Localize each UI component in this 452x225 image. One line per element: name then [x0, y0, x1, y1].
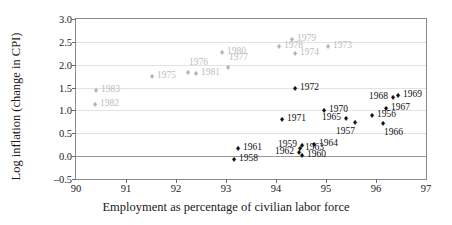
diamond-marker-icon: ♦: [290, 34, 295, 43]
y-axis-title: Log inflation (change in CPI): [9, 27, 24, 187]
y-axis-tick-mark: [72, 42, 76, 43]
diamond-marker-icon: ♦: [226, 63, 231, 72]
y-axis-tick-mark: [72, 65, 76, 66]
diamond-marker-icon: ♦: [150, 72, 155, 81]
data-point-label: 1961: [243, 143, 262, 153]
data-point-label: 1983: [101, 86, 120, 96]
diamond-marker-icon: ♦: [94, 86, 99, 95]
diamond-marker-icon: ♦: [280, 114, 285, 123]
plot-area: –0.50.00.51.01.52.02.53.0909192939495969…: [75, 18, 427, 180]
gridline-horizontal: [76, 65, 426, 66]
data-point-label: 1957: [336, 127, 355, 137]
y-axis-tick-label: –0.5: [54, 174, 72, 185]
gridline-horizontal: [76, 88, 426, 89]
x-axis-tick-mark: [376, 179, 377, 183]
data-point-label: 1980: [227, 47, 246, 57]
diamond-marker-icon: ♦: [293, 49, 298, 58]
y-axis-tick-mark: [72, 179, 76, 180]
data-point-label: 1979: [297, 34, 316, 44]
y-axis-tick-label: 1.5: [59, 82, 72, 93]
diamond-marker-icon: ♦: [300, 151, 305, 160]
data-point-label: 1959: [278, 140, 297, 150]
gridline-horizontal: [76, 133, 426, 134]
data-point-label: 1974: [300, 49, 319, 59]
diamond-marker-icon: ♦: [194, 68, 199, 77]
data-point-label: 1969: [403, 91, 422, 101]
data-point-label: 1982: [100, 100, 119, 110]
diamond-marker-icon: ♦: [370, 111, 375, 120]
y-axis-tick-label: 2.5: [59, 36, 72, 47]
y-axis-tick-mark: [72, 19, 76, 20]
x-axis-tick-mark: [276, 179, 277, 183]
data-point-label: 1973: [333, 41, 352, 51]
y-axis-tick-label: 2.0: [59, 59, 72, 70]
diamond-marker-icon: ♦: [322, 106, 327, 115]
data-point-label: 1966: [384, 128, 403, 138]
y-axis-tick-mark: [72, 133, 76, 134]
y-axis-tick-label: 0.0: [59, 151, 72, 162]
diamond-marker-icon: ♦: [186, 68, 191, 77]
x-axis-tick-mark: [226, 179, 227, 183]
x-axis-tick-mark: [176, 179, 177, 183]
data-point-label: 1967: [391, 103, 410, 113]
data-point-label: 1964: [319, 140, 338, 150]
data-point-label: 1981: [201, 68, 220, 78]
y-axis-tick-label: 3.0: [59, 14, 72, 25]
x-axis-tick-label: 94: [271, 183, 282, 194]
diamond-marker-icon: ♦: [293, 84, 298, 93]
y-axis-tick-mark: [72, 88, 76, 89]
y-axis-tick-label: 0.5: [59, 128, 72, 139]
x-axis-tick-label: 97: [421, 183, 432, 194]
diamond-marker-icon: ♦: [391, 92, 396, 101]
x-axis-tick-mark: [326, 179, 327, 183]
x-axis-tick-label: 95: [321, 183, 332, 194]
x-axis-tick-mark: [126, 179, 127, 183]
diamond-marker-icon: ♦: [277, 41, 282, 50]
y-axis-tick-label: 1.0: [59, 105, 72, 116]
data-point-label: 1960: [307, 150, 326, 160]
x-axis-tick-label: 93: [221, 183, 232, 194]
x-axis-tick-label: 96: [371, 183, 382, 194]
data-point-label: 1976: [189, 58, 208, 68]
chart-figure: –0.50.00.51.01.52.02.53.0909192939495969…: [0, 0, 452, 225]
diamond-marker-icon: ♦: [396, 91, 401, 100]
data-point-label: 1971: [287, 114, 306, 124]
data-point-label: 1968: [369, 92, 388, 102]
diamond-marker-icon: ♦: [326, 41, 331, 50]
x-axis-tick-label: 90: [71, 183, 82, 194]
diamond-marker-icon: ♦: [232, 154, 237, 163]
data-point-label: 1975: [157, 71, 176, 81]
diamond-marker-icon: ♦: [312, 140, 317, 149]
diamond-marker-icon: ♦: [300, 141, 305, 150]
diamond-marker-icon: ♦: [93, 100, 98, 109]
y-axis-tick-mark: [72, 156, 76, 157]
x-axis-title: Employment as percentage of civilian lab…: [0, 200, 452, 215]
diamond-marker-icon: ♦: [384, 104, 389, 113]
data-point-label: 1972: [300, 83, 319, 93]
data-point-label: 1958: [239, 154, 258, 164]
y-axis-tick-mark: [72, 110, 76, 111]
x-axis-tick-label: 91: [121, 183, 132, 194]
data-point-label: 1970: [329, 106, 348, 116]
diamond-marker-icon: ♦: [220, 47, 225, 56]
gridline-horizontal: [76, 42, 426, 43]
diamond-marker-icon: ♦: [236, 143, 241, 152]
x-axis-tick-label: 92: [171, 183, 182, 194]
